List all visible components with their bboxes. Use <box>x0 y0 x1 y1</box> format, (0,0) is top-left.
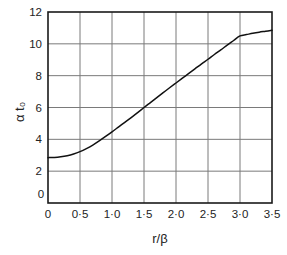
y-axis-title: α t₀ <box>12 102 27 122</box>
x-tick-label: 3·0 <box>232 208 249 220</box>
x-axis-title: r/β <box>152 231 167 246</box>
x-tick-label: 1·5 <box>136 208 153 220</box>
x-tick-label: 0 <box>45 208 51 220</box>
chart-figure: 00·51·01·52·02·53·03·5 24681012 0 r/β α … <box>0 0 287 255</box>
y-tick-label: 8 <box>36 70 42 82</box>
y-tick-label: 2 <box>36 165 42 177</box>
y-tick-label: 4 <box>36 133 43 145</box>
x-tick-label: 1·0 <box>104 208 121 220</box>
y-tick-label: 12 <box>29 6 42 18</box>
x-tick-label: 0·5 <box>72 208 89 220</box>
x-tick-label: 2·0 <box>168 208 185 220</box>
y-tick-label: 6 <box>36 102 42 114</box>
svg-text:α t₀: α t₀ <box>12 102 27 122</box>
x-tick-label: 3·5 <box>264 208 281 220</box>
y-tick-label: 10 <box>29 38 42 50</box>
x-tick-label: 2·5 <box>200 208 217 220</box>
chart-canvas: 00·51·01·52·02·53·03·5 24681012 0 r/β α … <box>0 0 287 255</box>
origin-tick-label: 0 <box>38 188 44 200</box>
